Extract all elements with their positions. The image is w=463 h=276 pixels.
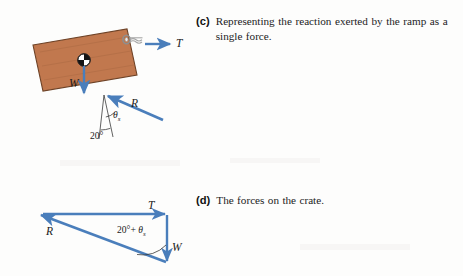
caption-d: (d) The forces on the crate. — [196, 193, 458, 208]
label-reaction-d: R — [46, 225, 53, 237]
caption-d-text: The forces on the crate. — [216, 193, 324, 208]
label-weight-c: W — [69, 77, 79, 89]
label-combined-angle-d: 20°+ θs — [117, 224, 146, 238]
label-tension-d: T — [148, 199, 154, 211]
label-friction-angle-c: θs — [113, 109, 120, 123]
label-weight-d: W — [172, 241, 182, 253]
label-ramp-angle-c: 20° — [90, 130, 103, 141]
center-of-mass-icon — [78, 54, 91, 67]
caption-c: (c) Representing the reaction exerted by… — [196, 14, 458, 43]
rope-stub — [130, 38, 143, 43]
label-reaction-c: R — [131, 97, 138, 109]
figure-page: T W R θs 20° T W R 20°+ θs (c) Represent… — [0, 0, 463, 276]
force-triangle-group — [41, 214, 167, 262]
caption-c-text: Representing the reaction exerted by the… — [216, 14, 448, 43]
label-tension-c: T — [176, 37, 182, 49]
caption-c-tag: (c) — [196, 14, 210, 29]
caption-d-tag: (d) — [196, 193, 210, 208]
